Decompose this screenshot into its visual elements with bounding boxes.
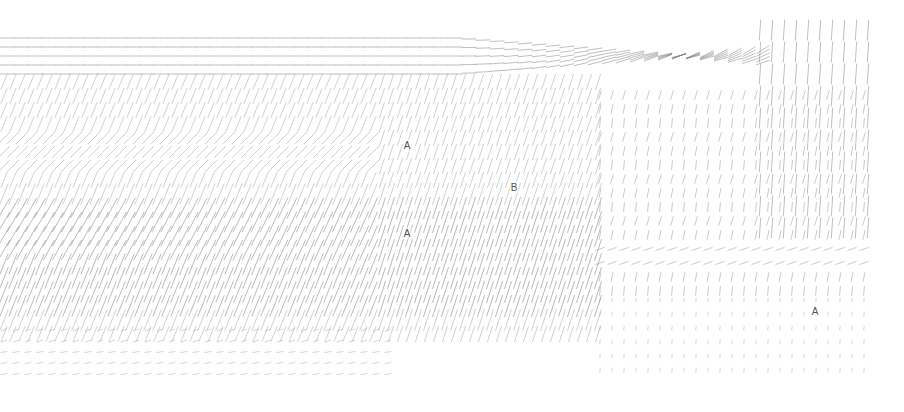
region-label-b: B <box>510 182 519 193</box>
region-label-a-middle: A <box>403 228 412 239</box>
region-label-a-upper: A <box>403 140 412 151</box>
orientation-field-canvas <box>0 0 904 412</box>
region-label-a-right: A <box>811 306 820 317</box>
